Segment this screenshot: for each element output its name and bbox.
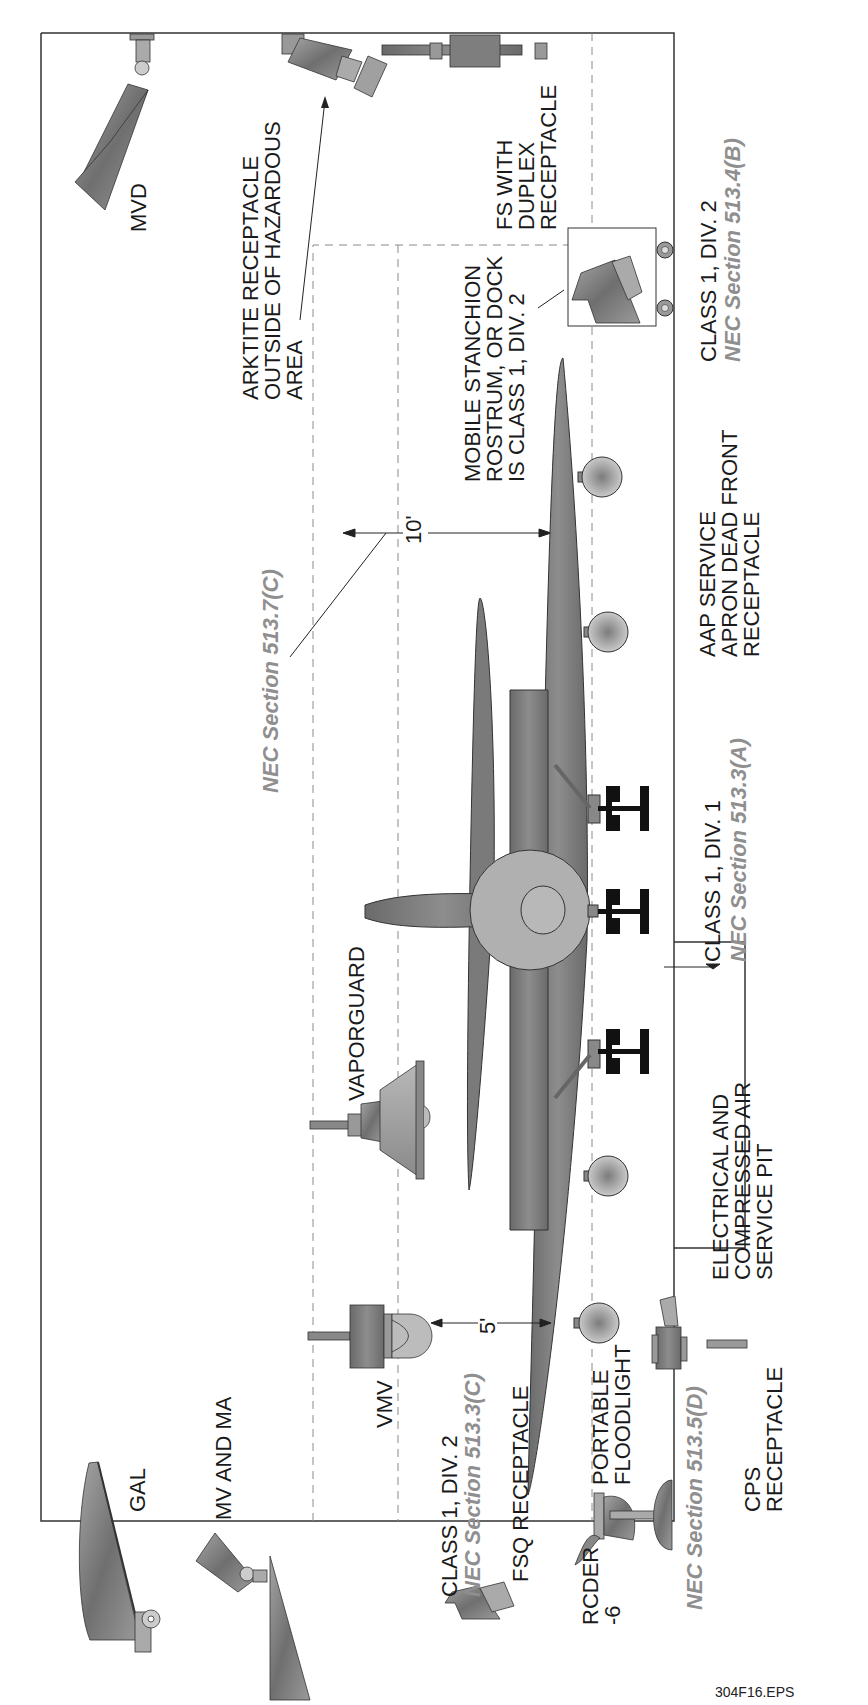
- label-arktite: ARKTITE RECEPTACLE OUTSIDE OF HAZARDOUS …: [240, 121, 306, 400]
- label-class1-div2-left: CLASS 1, DIV. 2: [439, 1435, 461, 1597]
- label-nec-513-3c: NEC Section 513.3(C): [462, 1373, 484, 1597]
- label-rcder: RCDER -6: [580, 1547, 624, 1625]
- fs-duplex-receptacle-fixture: [382, 35, 547, 67]
- label-class1-div1: CLASS 1, DIV. 1: [702, 800, 724, 962]
- stanchion-leader: [538, 290, 564, 308]
- label-aap-service: AAP SERVICE APRON DEAD FRONT RECEPTACLE: [697, 430, 763, 657]
- label-mvd: MVD: [128, 183, 150, 232]
- label-nec-513-5d: NEC Section 513.5(D): [684, 1386, 706, 1610]
- arktite-receptacle-fixture: [282, 34, 387, 97]
- label-vaporguard: VAPORGUARD: [346, 946, 368, 1101]
- label-mobile-stanchion: MOBILE STANCHION ROSTRUM, OR DOCK IS CLA…: [462, 256, 528, 482]
- label-class1-div2-right: CLASS 1, DIV. 2: [698, 200, 720, 362]
- label-vmv: VMV: [374, 1380, 396, 1428]
- label-nec-513-4b: NEC Section 513.4(B): [722, 138, 744, 362]
- label-portable-floodlight: PORTABLE FLOODLIGHT: [590, 1344, 634, 1485]
- landing-gear: [598, 786, 649, 1074]
- label-cps-receptacle: CPS RECEPTACLE: [742, 1367, 786, 1512]
- cps-receptacle-fixture: [652, 1296, 747, 1369]
- label-nec-513-7c: NEC Section 513.7(C): [260, 569, 282, 793]
- label-mv-and-ma: MV AND MA: [213, 1397, 235, 1520]
- label-fsq-receptacle: FSQ RECEPTACLE: [510, 1386, 532, 1582]
- ten-foot-dimension: [290, 529, 551, 657]
- label-electrical-pit: ELECTRICAL AND COMPRESSED AIR SERVICE PI…: [710, 1082, 776, 1280]
- label-fs-duplex: FS WITH DUPLEX RECEPTACLE: [494, 85, 560, 230]
- arrow-head-icon: [321, 96, 329, 108]
- label-five-feet: 5': [477, 1318, 499, 1334]
- mv-and-ma-fixture: [196, 1533, 310, 1700]
- label-ten-feet: 10': [403, 515, 425, 544]
- mobile-stanchion-fixture: [568, 228, 673, 326]
- vmv-fixture: [308, 1305, 432, 1368]
- label-gal: GAL: [127, 1468, 149, 1512]
- vaporguard-fixture: [310, 1061, 430, 1179]
- class1-div1-arrow: [664, 964, 720, 969]
- label-nec-513-3a: NEC Section 513.3(A): [728, 738, 750, 962]
- figure-file-id: 304F16.EPS: [715, 1684, 794, 1700]
